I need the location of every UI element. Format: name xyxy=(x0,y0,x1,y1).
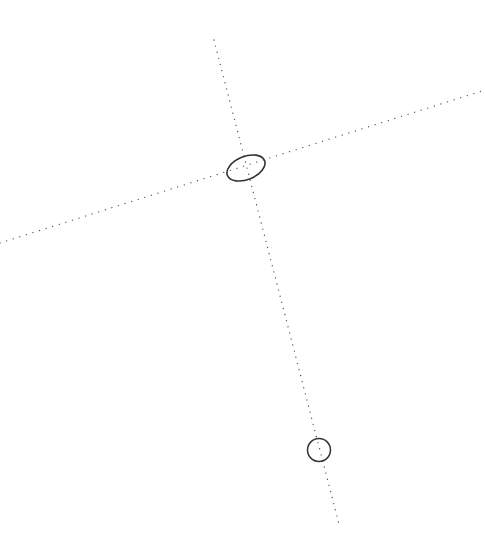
diagram-canvas xyxy=(0,0,485,541)
intersection-ellipse xyxy=(223,150,269,186)
dotted-line-shallow xyxy=(0,91,482,243)
dotted-line-steep xyxy=(214,40,339,524)
point-circle xyxy=(308,439,331,462)
